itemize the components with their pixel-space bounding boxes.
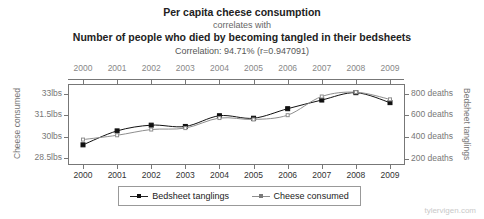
x-axis-bottom-label-2003: 2003 xyxy=(168,170,202,180)
y-tickmark xyxy=(404,94,409,95)
chart-title-block: Per capita cheese consumption correlates… xyxy=(0,0,484,58)
data-point xyxy=(286,114,289,117)
legend-item-0[interactable]: Bedsheet tanglings xyxy=(130,191,229,201)
x-axis-bottom-label-2007: 2007 xyxy=(305,170,339,180)
data-point xyxy=(286,107,290,111)
top-axis-rule xyxy=(68,79,404,80)
x-axis-bottom-label-2000: 2000 xyxy=(66,170,100,180)
right-axis-tick-1: 600 deaths xyxy=(411,109,453,119)
x-tickmark xyxy=(254,164,255,169)
x-axis-top-label-2003: 2003 xyxy=(168,63,202,73)
legend-marker-icon xyxy=(252,192,270,200)
correlation-text: Correlation: 94.71% (r=0.947091) xyxy=(0,45,484,58)
title-line-2: correlates with xyxy=(0,19,484,31)
data-point xyxy=(252,118,255,121)
data-point xyxy=(354,91,357,94)
legend-item-1[interactable]: Cheese consumed xyxy=(252,191,349,201)
left-axis-tick-3: 28.5lbs xyxy=(0,152,62,162)
x-axis-top-label-2005: 2005 xyxy=(237,63,271,73)
x-axis-top-label-2007: 2007 xyxy=(305,63,339,73)
y-tickmark xyxy=(404,159,409,160)
x-axis-bottom-label-2008: 2008 xyxy=(339,170,373,180)
chart-legend: Bedsheet tanglingsCheese consumed xyxy=(118,186,361,206)
watermark: tylervigen.com xyxy=(424,206,476,215)
x-tickmark xyxy=(322,164,323,169)
x-tickmark xyxy=(288,164,289,169)
legend-label: Cheese consumed xyxy=(274,191,349,201)
x-axis-bottom-label-2005: 2005 xyxy=(237,170,271,180)
y-tickmark xyxy=(64,158,69,159)
left-axis-tick-1: 31.5lbs xyxy=(0,109,62,119)
y-tickmark xyxy=(404,137,409,138)
x-axis-top-label-2000: 2000 xyxy=(66,63,100,73)
x-axis-bottom-label-2004: 2004 xyxy=(202,170,236,180)
data-point xyxy=(320,98,324,102)
x-axis-bottom-label-2002: 2002 xyxy=(134,170,168,180)
series-layer xyxy=(69,85,404,164)
data-point xyxy=(149,123,153,127)
legend-marker-icon xyxy=(130,192,148,200)
data-point xyxy=(320,95,323,98)
x-axis-bottom-label-2001: 2001 xyxy=(100,170,134,180)
plot-frame xyxy=(68,84,405,165)
right-axis-tick-3: 200 deaths xyxy=(411,153,453,163)
x-tickmark xyxy=(151,164,152,169)
series-line-left xyxy=(83,92,390,140)
right-axis-tick-2: 400 deaths xyxy=(411,131,453,141)
data-point xyxy=(116,134,119,137)
title-line-1: Per capita cheese consumption xyxy=(0,6,484,19)
right-axis-tick-0: 800 deaths xyxy=(411,88,453,98)
data-point xyxy=(389,98,392,101)
legend-label: Bedsheet tanglings xyxy=(152,191,229,201)
x-tickmark xyxy=(356,164,357,169)
x-tickmark xyxy=(390,164,391,169)
y-tickmark xyxy=(64,94,69,95)
y-tickmark xyxy=(64,115,69,116)
y-tickmark xyxy=(404,115,409,116)
x-axis-top-label-2006: 2006 xyxy=(271,63,305,73)
x-tickmark xyxy=(117,164,118,169)
x-axis-bottom-label-2009: 2009 xyxy=(373,170,407,180)
data-point xyxy=(218,117,221,120)
x-axis-top-label-2004: 2004 xyxy=(202,63,236,73)
x-axis-top-label-2009: 2009 xyxy=(373,63,407,73)
y-tickmark xyxy=(64,137,69,138)
right-axis-title: Bedsheet tanglings xyxy=(462,84,472,164)
data-point xyxy=(184,127,187,130)
data-point xyxy=(82,138,85,141)
left-axis-tick-2: 30lbs xyxy=(0,131,62,141)
x-tickmark xyxy=(185,164,186,169)
data-point xyxy=(115,129,119,133)
x-axis-top-label-2002: 2002 xyxy=(134,63,168,73)
title-line-3: Number of people who died by becoming ta… xyxy=(0,31,484,44)
left-axis-tick-0: 33lbs xyxy=(0,88,62,98)
x-axis-bottom-label-2006: 2006 xyxy=(271,170,305,180)
x-tickmark xyxy=(83,164,84,169)
data-point xyxy=(81,143,85,147)
data-point xyxy=(150,128,153,131)
x-tickmark xyxy=(219,164,220,169)
x-axis-top-label-2008: 2008 xyxy=(339,63,373,73)
x-axis-top-label-2001: 2001 xyxy=(100,63,134,73)
